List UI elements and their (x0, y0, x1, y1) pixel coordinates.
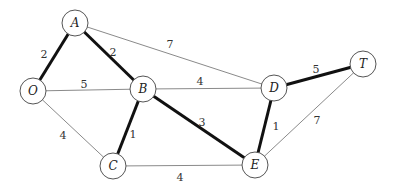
node-label: E (250, 158, 260, 172)
nodes-layer: AOBCDET (20, 10, 376, 179)
edge-c-e (113, 165, 255, 166)
edge-weight-b-d: 4 (197, 75, 204, 88)
edge-weight-o-b: 5 (81, 78, 88, 91)
edge-o-b (33, 89, 143, 91)
edge-weight-o-a: 2 (41, 48, 48, 61)
node-label: C (108, 159, 117, 173)
graph-diagram: 227541434157 AOBCDET (0, 0, 396, 190)
node-label: D (268, 81, 279, 95)
edge-o-c (33, 91, 113, 166)
node-t: T (350, 51, 376, 77)
edge-weight-a-d: 7 (167, 38, 174, 51)
edge-weight-b-e: 3 (199, 116, 206, 129)
edges-layer (33, 23, 363, 166)
edge-weight-d-e: 1 (273, 120, 280, 133)
node-label: O (28, 84, 38, 98)
edge-weight-d-t: 5 (313, 63, 320, 76)
edge-weight-c-e: 4 (177, 171, 184, 184)
edge-weight-a-b: 2 (110, 46, 117, 59)
node-label: A (70, 16, 80, 30)
node-c: C (100, 153, 126, 179)
edge-b-d (143, 88, 274, 89)
node-label: T (359, 57, 368, 71)
node-label: B (138, 82, 148, 96)
node-a: A (62, 10, 88, 36)
edge-weight-b-c: 1 (130, 128, 137, 141)
node-b: B (130, 76, 156, 102)
node-o: O (20, 78, 46, 104)
edge-weight-o-c: 4 (60, 129, 67, 142)
edge-labels-layer: 227541434157 (41, 38, 321, 184)
edge-weight-e-t: 7 (314, 114, 321, 127)
node-d: D (261, 75, 287, 101)
edge-a-d (75, 23, 274, 88)
node-e: E (242, 152, 268, 178)
